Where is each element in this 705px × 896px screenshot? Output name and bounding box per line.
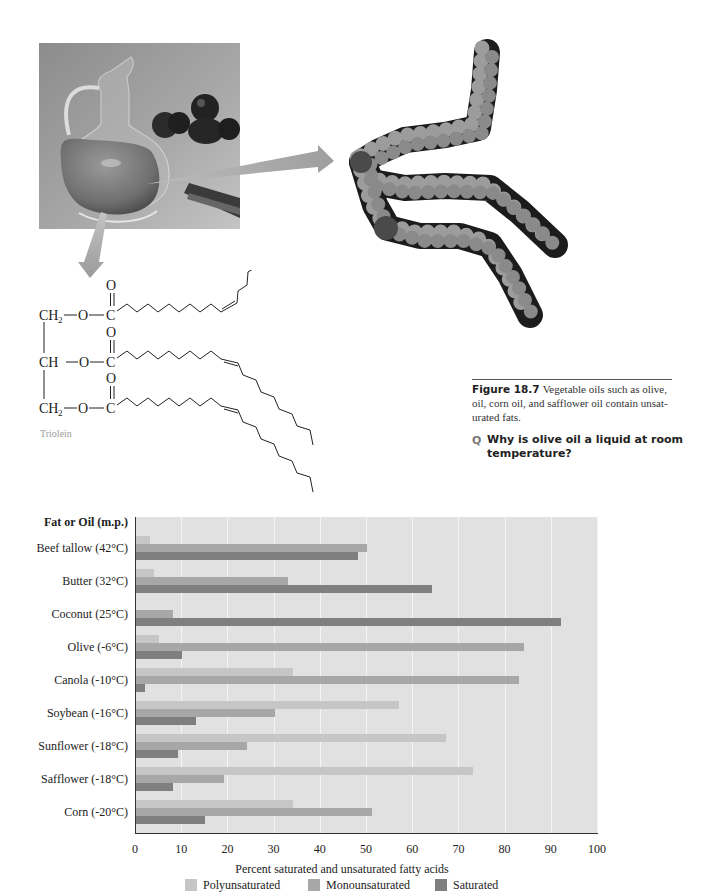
bar-chart-plot-area <box>135 517 598 834</box>
svg-text:O: O <box>78 401 88 416</box>
bar-monounsaturated <box>136 775 224 783</box>
category-label: Butter (32°C) <box>0 574 128 588</box>
category-label: Soybean (-16°C) <box>0 706 128 720</box>
bar-polyunsaturated <box>136 767 473 775</box>
x-tick-label: 40 <box>300 842 340 857</box>
ch-middle: CH <box>39 355 58 370</box>
category-label: Corn (-20°C) <box>0 805 128 819</box>
question-marker: Q <box>472 434 481 447</box>
ch2-bottom: CH <box>39 401 58 416</box>
x-tick-label: 60 <box>392 842 432 857</box>
svg-text:C: C <box>106 308 115 323</box>
category-label: Canola (-10°C) <box>0 673 128 687</box>
x-tick-label: 100 <box>577 842 617 857</box>
bar-saturated <box>136 684 145 692</box>
x-tick-label: 10 <box>161 842 201 857</box>
bar-saturated <box>136 618 561 626</box>
figure-label: Figure 18.7 <box>472 383 540 395</box>
legend-label-polyunsaturated: Polyunsaturated <box>203 878 280 893</box>
svg-text:O: O <box>78 308 88 323</box>
legend-swatch-monounsaturated <box>308 879 320 891</box>
bar-saturated <box>136 585 432 593</box>
x-tick-label: 20 <box>207 842 247 857</box>
legend-label-saturated: Saturated <box>453 878 498 893</box>
question-line-1: Why is olive oil a liquid at room <box>487 433 683 447</box>
category-label: Coconut (25°C) <box>0 607 128 621</box>
svg-text:2: 2 <box>58 408 63 418</box>
figure-caption-line-1: Figure 18.7Vegetable oils such as olive, <box>472 382 687 396</box>
x-tick-label: 90 <box>531 842 571 857</box>
carbonyl-oxygen-2: O <box>106 325 116 340</box>
x-tick-label: 30 <box>254 842 294 857</box>
triolein-structure: O CH 2 O C O CH O C O CH 2 O C <box>0 270 330 500</box>
legend-swatch-polyunsaturated <box>185 879 197 891</box>
bar-saturated <box>136 552 358 560</box>
bar-polyunsaturated <box>136 569 154 577</box>
x-tick-label: 0 <box>115 842 155 857</box>
category-label: Olive (-6°C) <box>0 640 128 654</box>
bar-saturated <box>136 750 178 758</box>
bar-monounsaturated <box>136 742 247 750</box>
bar-polyunsaturated <box>136 701 399 709</box>
carbonyl-oxygen-1: O <box>106 278 116 293</box>
bar-polyunsaturated <box>136 635 159 643</box>
arrow-down-icon <box>78 212 107 278</box>
bar-monounsaturated <box>136 643 524 651</box>
bar-monounsaturated <box>136 544 367 552</box>
legend-label-monounsaturated: Monounsaturated <box>326 878 410 893</box>
svg-text:2: 2 <box>58 315 63 325</box>
svg-text:C: C <box>106 401 115 416</box>
bar-saturated <box>136 651 182 659</box>
bar-polyunsaturated <box>136 734 446 742</box>
bar-monounsaturated <box>136 709 275 717</box>
question-line-2: temperature? <box>487 447 572 461</box>
bar-monounsaturated <box>136 808 372 816</box>
svg-text:O: O <box>79 355 89 370</box>
x-tick-label: 80 <box>485 842 525 857</box>
category-label: Safflower (-18°C) <box>0 772 128 786</box>
x-tick-label: 70 <box>438 842 478 857</box>
bar-monounsaturated <box>136 676 519 684</box>
carbonyl-oxygen-3: O <box>106 371 116 386</box>
bar-polyunsaturated <box>136 536 150 544</box>
legend-swatch-saturated <box>435 879 447 891</box>
category-label: Sunflower (-18°C) <box>0 739 128 753</box>
x-axis-label: Percent saturated and unsaturated fatty … <box>135 862 549 877</box>
bar-polyunsaturated <box>136 800 293 808</box>
bar-monounsaturated <box>136 577 288 585</box>
bar-saturated <box>136 717 196 725</box>
ch2-top: CH <box>39 308 58 323</box>
bar-polyunsaturated <box>136 668 293 676</box>
space-filling-model <box>340 30 580 340</box>
svg-text:C: C <box>106 355 115 370</box>
triolein-label: Triolein <box>40 428 72 439</box>
figure-caption-line-2: oil, corn oil, and safflower oil contain… <box>472 396 687 410</box>
bar-monounsaturated <box>136 610 173 618</box>
figure-caption-line-3: urated fats. <box>472 410 687 424</box>
x-tick-label: 50 <box>346 842 386 857</box>
category-header: Fat or Oil (m.p.) <box>0 515 128 530</box>
bar-saturated <box>136 816 205 824</box>
caption-rule <box>472 379 672 380</box>
bar-saturated <box>136 783 173 791</box>
category-label: Beef tallow (42°C) <box>0 541 128 555</box>
